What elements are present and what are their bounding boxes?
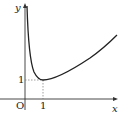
origin-label: O [16, 101, 24, 111]
x-axis-label: x [112, 104, 118, 114]
function-graph: y x O 1 1 [0, 0, 121, 121]
x-tick-label: 1 [40, 101, 46, 111]
function-curve [27, 6, 117, 80]
y-tick-label: 1 [18, 75, 24, 85]
y-axis-label: y [15, 3, 21, 13]
x-axis-arrow-icon [113, 97, 118, 101]
